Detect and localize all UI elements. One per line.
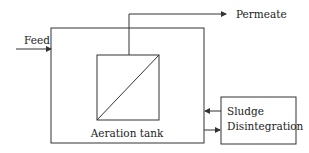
permeate-arrow [129, 14, 226, 55]
aeration-tank-box [51, 28, 204, 143]
membrane-module [97, 55, 159, 120]
sludge-label-line2: Disintegration [227, 120, 304, 132]
diagram-canvas: Feed Permeate Aeration tank Sludge Disin… [0, 0, 309, 153]
membrane-diagonal [97, 55, 159, 120]
feed-label: Feed [24, 34, 50, 46]
sludge-label-line1: Sludge [227, 105, 264, 117]
permeate-label: Permeate [236, 8, 287, 20]
aeration-tank-label: Aeration tank [90, 127, 164, 139]
